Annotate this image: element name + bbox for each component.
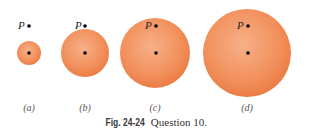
point-p-dot [27,24,31,28]
caption-label: Fig. 24-24 [105,117,144,128]
point-p-label-a: P [18,19,25,31]
panel-label-d: (d) [241,102,253,113]
sphere-c [120,18,190,88]
center-dot [154,51,158,55]
point-p-dot [154,24,158,28]
point-p-label-d: P [237,19,244,31]
caption-text: Question 10. [151,116,207,128]
panel-label-a: (a) [23,102,35,113]
sphere-d [203,9,291,97]
panel-label-c: (c) [149,102,160,113]
point-p-dot [83,24,87,28]
center-dot [246,51,250,55]
figure-caption: Fig. 24-24 Question 10. [0,116,309,128]
center-dot [83,51,87,55]
figure-canvas [0,0,309,133]
point-p-label-b: P [75,19,82,31]
panel-label-b: (b) [79,102,91,113]
point-p-dot [246,24,250,28]
point-p-label-c: P [145,19,152,31]
sphere-b [61,24,109,77]
center-dot [27,51,31,55]
